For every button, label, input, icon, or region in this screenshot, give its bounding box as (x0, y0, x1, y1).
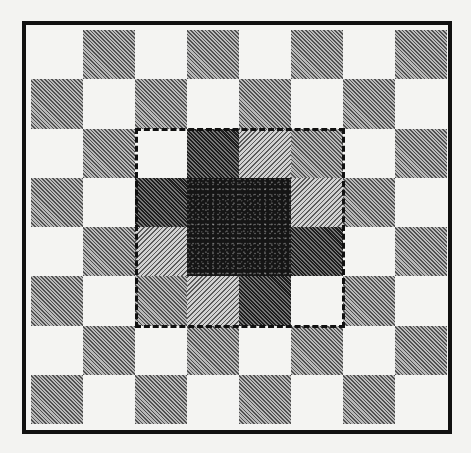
board-square-r4-c2 (135, 227, 187, 276)
board-square-r0-c1 (83, 30, 135, 79)
board-square-r7-c1 (83, 375, 135, 424)
board-square-r0-c7 (395, 30, 447, 79)
board-square-r5-c6 (343, 276, 395, 325)
board-square-r1-c3 (187, 79, 239, 128)
board-square-r2-c3 (187, 129, 239, 178)
board-square-r4-c6 (343, 227, 395, 276)
board-square-r4-c5 (291, 227, 343, 276)
board-square-r7-c4 (239, 375, 291, 424)
board-square-r5-c2 (135, 276, 187, 325)
board-square-r3-c1 (83, 178, 135, 227)
board-square-r0-c2 (135, 30, 187, 79)
board-square-r1-c1 (83, 79, 135, 128)
board-square-r4-c7 (395, 227, 447, 276)
board-square-r2-c5 (291, 129, 343, 178)
board-square-r3-c5 (291, 178, 343, 227)
board-square-r7-c2 (135, 375, 187, 424)
board-square-r6-c3 (187, 326, 239, 375)
board-square-r6-c1 (83, 326, 135, 375)
board-square-r0-c0 (31, 30, 83, 79)
board-square-r5-c0 (31, 276, 83, 325)
board-square-r6-c4 (239, 326, 291, 375)
board-square-r3-c3 (187, 178, 239, 227)
checkerboard-grid (31, 30, 447, 424)
board-square-r2-c1 (83, 129, 135, 178)
board-square-r6-c5 (291, 326, 343, 375)
board-square-r7-c3 (187, 375, 239, 424)
board-square-r2-c0 (31, 129, 83, 178)
board-square-r5-c5 (291, 276, 343, 325)
board-square-r1-c4 (239, 79, 291, 128)
board-square-r3-c7 (395, 178, 447, 227)
checkerboard-figure (0, 0, 471, 453)
board-square-r6-c2 (135, 326, 187, 375)
board-square-r7-c7 (395, 375, 447, 424)
board-square-r1-c6 (343, 79, 395, 128)
board-square-r1-c7 (395, 79, 447, 128)
board-square-r6-c0 (31, 326, 83, 375)
board-square-r5-c3 (187, 276, 239, 325)
board-square-r2-c4 (239, 129, 291, 178)
board-square-r6-c6 (343, 326, 395, 375)
board-square-r0-c4 (239, 30, 291, 79)
board-square-r4-c4 (239, 227, 291, 276)
board-square-r3-c2 (135, 178, 187, 227)
board-square-r1-c0 (31, 79, 83, 128)
board-square-r1-c5 (291, 79, 343, 128)
board-square-r5-c7 (395, 276, 447, 325)
board-square-r4-c1 (83, 227, 135, 276)
board-square-r0-c3 (187, 30, 239, 79)
board-square-r2-c2 (135, 129, 187, 178)
board-square-r6-c7 (395, 326, 447, 375)
board-square-r5-c1 (83, 276, 135, 325)
board-square-r3-c0 (31, 178, 83, 227)
board-square-r3-c6 (343, 178, 395, 227)
board-square-r2-c7 (395, 129, 447, 178)
board-square-r5-c4 (239, 276, 291, 325)
board-square-r0-c6 (343, 30, 395, 79)
board-square-r1-c2 (135, 79, 187, 128)
board-square-r3-c4 (239, 178, 291, 227)
board-square-r7-c6 (343, 375, 395, 424)
board-square-r4-c3 (187, 227, 239, 276)
board-square-r4-c0 (31, 227, 83, 276)
board-square-r7-c5 (291, 375, 343, 424)
board-square-r2-c6 (343, 129, 395, 178)
board-square-r7-c0 (31, 375, 83, 424)
board-square-r0-c5 (291, 30, 343, 79)
